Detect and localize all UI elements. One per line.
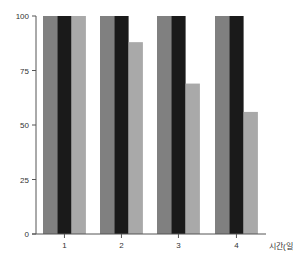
bar-series-2-cat-1 xyxy=(57,16,71,234)
y-tick-label: 25 xyxy=(20,176,29,185)
y-tick-label: 100 xyxy=(16,12,30,21)
bar-series-3-cat-1 xyxy=(72,16,86,234)
y-tick-label: 0 xyxy=(25,230,30,239)
x-axis: 1234 xyxy=(32,234,266,250)
bar-series-3-cat-2 xyxy=(129,42,143,234)
x-tick-label: 2 xyxy=(119,241,124,250)
x-axis-label: 시간(일) xyxy=(269,241,293,251)
bar-series-3-cat-4 xyxy=(244,112,258,234)
y-axis: 0255075100 xyxy=(16,12,36,239)
bar-series-2-cat-2 xyxy=(114,16,128,234)
bar-series-1-cat-4 xyxy=(215,16,229,234)
bar-series-1-cat-3 xyxy=(157,16,171,234)
x-tick-label: 3 xyxy=(176,241,181,250)
y-tick-label: 75 xyxy=(20,67,29,76)
bar-series-1-cat-2 xyxy=(100,16,114,234)
bar-series-1-cat-1 xyxy=(43,16,57,234)
x-tick-label: 1 xyxy=(62,241,67,250)
x-tick-label: 4 xyxy=(234,241,239,250)
bars-group xyxy=(43,16,258,234)
bar-series-2-cat-3 xyxy=(171,16,185,234)
bar-chart: 0255075100 1234 시간(일) xyxy=(0,0,293,262)
bar-series-3-cat-3 xyxy=(186,84,200,234)
bar-series-2-cat-4 xyxy=(229,16,243,234)
y-tick-label: 50 xyxy=(20,121,29,130)
